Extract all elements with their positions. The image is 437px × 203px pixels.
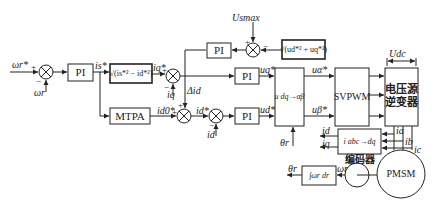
udc-label: Udc — [389, 49, 406, 59]
pi-q-block: PI — [235, 68, 259, 84]
sign-minus: − — [36, 77, 41, 86]
sign-minus: − — [263, 42, 268, 51]
sign-plus: + — [245, 38, 250, 47]
ud-ref-label: ud* — [260, 105, 275, 115]
sign-plus: + — [172, 108, 177, 117]
theta-in-label: θr — [280, 138, 289, 148]
abc-to-dq-block: i abc→dq — [338, 129, 381, 154]
dq-to-alphabeta-block: u dq→αβ — [275, 68, 304, 126]
sqrt-voltage-block: √(ud*² + uq*²) — [282, 40, 325, 59]
svpwm-block: SVPWM — [335, 68, 369, 126]
uq-ref-label: uq* — [260, 65, 275, 75]
summing-junction-speed — [39, 65, 53, 79]
sign-plus: + — [178, 101, 183, 110]
ib-label: ib — [405, 137, 413, 147]
pi-voltage-block: PI — [207, 43, 231, 58]
iq-fb-label: iq — [167, 90, 175, 100]
id-ref-label: id* — [196, 106, 209, 116]
theta-out-label: θr — [288, 164, 297, 174]
sign-plus: + — [31, 63, 36, 72]
omega-enc-label: ωr — [337, 164, 348, 174]
usmax-label: Usmax — [232, 13, 260, 23]
iq-out-label: iq — [322, 139, 330, 149]
speed-ref-label: ωr* — [12, 60, 28, 70]
sign-plus: + — [162, 66, 167, 75]
ubeta-ref-label: uβ* — [312, 105, 327, 115]
ia-label: ia — [396, 126, 404, 136]
encoder-label: 编码器 — [345, 154, 375, 166]
delta-id-label: Δid — [187, 86, 201, 96]
pi-speed-block: PI — [68, 64, 93, 81]
mtpa-block: MTPA — [110, 108, 150, 124]
diagram-canvas — [0, 0, 437, 203]
pmsm-motor: PMSM — [377, 164, 425, 184]
id-fb-label: id — [207, 130, 215, 140]
is-ref-label: is* — [95, 61, 107, 71]
inverter-block: 电压源 逆变器 — [385, 68, 418, 126]
integrator-block: ∫ωr dr — [302, 166, 336, 185]
speed-fb-label: ωr — [34, 88, 45, 98]
pi-d-block: PI — [235, 108, 259, 124]
id-out-label: id — [322, 126, 330, 136]
ualpha-ref-label: uα* — [312, 65, 327, 75]
ic-label: ic — [414, 145, 421, 155]
sqrt-current-block: √(is*² − id*²) — [110, 64, 152, 83]
